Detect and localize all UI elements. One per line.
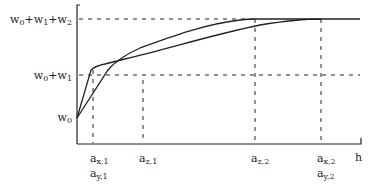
label-ax2: ax,2	[317, 152, 336, 166]
label-ax1: ax,1	[90, 152, 109, 166]
piecewise-curve-xy	[77, 19, 360, 118]
smooth-curve-z	[77, 19, 321, 118]
x-axis-label-h: h	[355, 151, 362, 164]
axes	[77, 5, 361, 144]
label-ay1: ay,1	[90, 167, 108, 181]
label-az1: az,1	[139, 152, 157, 166]
label-w0-w1-w2: w0+w1+w2	[10, 13, 72, 27]
reliability-level-diagram: w0+w1+w2 w0+w1 w0 ax,1 ay,1 az,1 az,2 ax…	[0, 0, 384, 191]
guide-lines	[79, 19, 360, 143]
label-az2: az,2	[251, 152, 269, 166]
label-w0: w0	[57, 111, 72, 125]
label-ay2: ay,2	[317, 167, 335, 181]
label-w0-w1: w0+w1	[34, 69, 72, 83]
curves	[77, 19, 360, 118]
x-axis	[77, 138, 361, 144]
